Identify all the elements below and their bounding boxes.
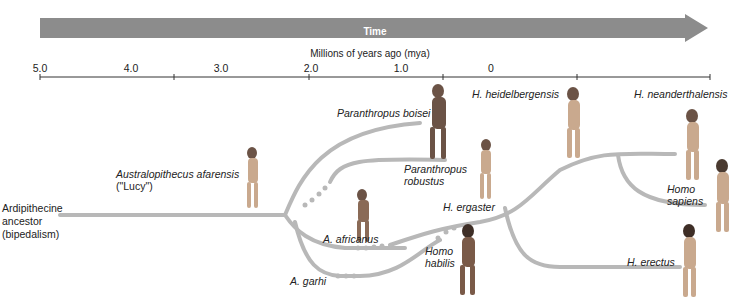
branch-boisei bbox=[285, 123, 420, 215]
label-erectus: H. erectus bbox=[627, 256, 675, 268]
label-heidelbergensis: H. heidelbergensis bbox=[472, 88, 559, 100]
figure-erectus bbox=[683, 224, 696, 297]
figure-afarensis bbox=[247, 147, 258, 208]
figure-neanderthalensis bbox=[686, 109, 699, 180]
sapiens-line2: sapiens bbox=[667, 195, 703, 207]
ancestor-line3: (bipedalism) bbox=[2, 228, 63, 241]
label-garhi: A. garhi bbox=[290, 275, 326, 287]
ancestor-line2: ancestor bbox=[2, 215, 63, 228]
robustus-line1: Paranthropus bbox=[404, 163, 467, 175]
label-africanus: A. africanus bbox=[323, 233, 378, 245]
label-robustus: Paranthropus robustus bbox=[404, 163, 467, 187]
habilis-line2: habilis bbox=[425, 257, 455, 269]
label-neanderthalensis: H. neanderthalensis bbox=[634, 88, 727, 100]
ancestor-line1: Ardipithecine bbox=[2, 202, 63, 215]
label-sapiens: Homo sapiens bbox=[667, 183, 703, 207]
label-afarensis: Australopithecus afarensis ("Lucy") bbox=[116, 168, 239, 192]
sapiens-line1: Homo bbox=[667, 183, 703, 195]
label-ergaster: H. ergaster bbox=[443, 201, 495, 213]
afarensis-name: Australopithecus afarensis bbox=[116, 168, 239, 180]
robustus-line2: robustus bbox=[404, 175, 467, 187]
figure-habilis bbox=[460, 224, 475, 295]
habilis-line1: Homo bbox=[425, 245, 455, 257]
ancestor-label: Ardipithecine ancestor (bipedalism) bbox=[2, 202, 63, 241]
figure-ergaster bbox=[480, 139, 491, 199]
label-habilis: Homo habilis bbox=[425, 245, 455, 269]
figure-sapiens bbox=[716, 159, 729, 232]
figure-boisei bbox=[430, 84, 446, 159]
figure-heidelbergensis bbox=[567, 87, 580, 158]
afarensis-nickname: ("Lucy") bbox=[116, 180, 239, 192]
time-axis bbox=[40, 74, 710, 80]
label-boisei: Paranthropus boisei bbox=[337, 107, 430, 119]
